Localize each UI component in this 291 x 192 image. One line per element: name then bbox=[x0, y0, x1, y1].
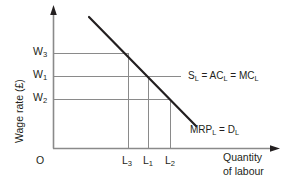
supply-curve-label: SL = ACL = MCL bbox=[188, 70, 259, 81]
subscript-l: L bbox=[195, 74, 199, 83]
subscript-3: 3 bbox=[43, 50, 47, 59]
economics-diagram: Wage rate (£) W3 W1 W2 O L3 L1 L2 Quanti… bbox=[0, 0, 291, 192]
x-axis-arrow-icon bbox=[270, 145, 280, 152]
y-tick-label-w1: W1 bbox=[33, 69, 47, 81]
x-tick-label-l1: L1 bbox=[143, 155, 153, 167]
demand-curve-label: MRPL = DL bbox=[190, 124, 239, 135]
x-axis-title-line2: of labour bbox=[223, 166, 264, 178]
x-tick-label-l3: L3 bbox=[122, 155, 132, 167]
subscript-l: L bbox=[255, 74, 259, 83]
y-axis-title: Wage rate (£) bbox=[14, 79, 26, 143]
y-tick-label-w2: W2 bbox=[33, 92, 47, 104]
x-tick-label-l2: L2 bbox=[165, 155, 175, 167]
subscript-1: 1 bbox=[149, 159, 153, 168]
y-axis-arrow-icon bbox=[50, 5, 57, 15]
demand-curve bbox=[89, 17, 196, 126]
subscript-3: 3 bbox=[128, 159, 132, 168]
subscript-l: L bbox=[223, 74, 227, 83]
subscript-2: 2 bbox=[171, 159, 175, 168]
y-tick-label-w3: W3 bbox=[33, 46, 47, 58]
subscript-l: L bbox=[212, 128, 216, 137]
subscript-2: 2 bbox=[43, 96, 47, 105]
origin-label: O bbox=[36, 155, 44, 167]
subscript-1: 1 bbox=[43, 73, 47, 82]
x-axis-title-line1: Quantity bbox=[223, 152, 262, 164]
subscript-l: L bbox=[235, 128, 239, 137]
